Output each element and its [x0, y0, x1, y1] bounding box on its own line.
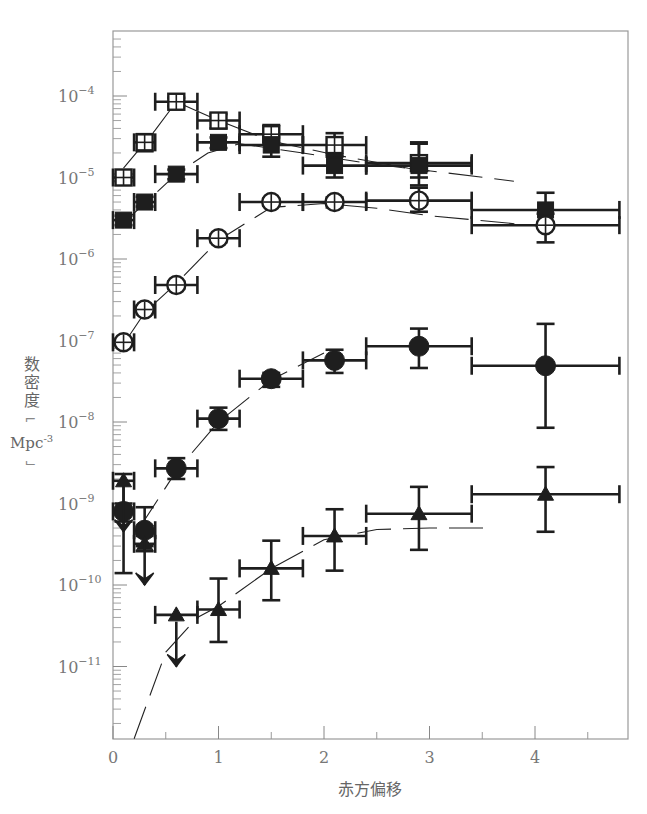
filled-square-marker — [116, 212, 132, 228]
filled-triangles-point — [366, 487, 472, 550]
open-squares-point — [303, 133, 366, 157]
y-tick-label: 10−9 — [58, 492, 95, 514]
filled-circle-marker — [166, 458, 186, 478]
filled-squares-point — [155, 165, 197, 183]
x-tick-label: 1 — [213, 748, 223, 767]
open-circles-point — [240, 193, 303, 211]
y-tick-label: 10−11 — [58, 655, 102, 677]
data-points — [113, 93, 619, 667]
filled-circles-point — [240, 369, 303, 389]
filled-circle-marker — [409, 336, 429, 356]
open-circles-point — [197, 229, 239, 247]
filled-square-marker — [168, 166, 184, 182]
y-tick-exponent: −4 — [78, 84, 94, 97]
filled-circles-point — [197, 408, 239, 430]
y-tick-label: 10−4 — [58, 84, 95, 106]
unit-text: Mpc — [10, 434, 43, 452]
open-circles-point — [113, 333, 134, 351]
y-tick-exponent: −6 — [78, 247, 94, 260]
open-squares-point — [113, 169, 134, 187]
open-circles-point — [303, 193, 366, 211]
filled-triangles-point — [472, 467, 620, 532]
x-tick-label: 0 — [108, 748, 118, 767]
filled-circles-point — [303, 350, 366, 373]
open-circles-point — [366, 188, 472, 212]
y-tick-label: 10−8 — [58, 410, 95, 432]
filled-circle-marker — [261, 369, 281, 389]
y-tick-exponent: −11 — [78, 655, 101, 668]
y-tick-label: 10−7 — [58, 329, 95, 351]
filled-squares-point — [197, 133, 239, 151]
plot-frame — [113, 31, 628, 739]
filled-circles-point — [155, 458, 197, 479]
bracket-close: ⌙ — [14, 453, 46, 472]
filled-triangles-point — [167, 622, 185, 667]
filled-circle-marker — [209, 409, 229, 429]
filled-square-marker — [137, 194, 153, 210]
filled-triangles-point — [303, 509, 366, 570]
filled-circle-marker — [536, 356, 556, 376]
y-axis-unit: Mpc-3 — [10, 429, 46, 453]
y-axis-label: 数密度 ⌐ Mpc-3 ⌙ — [14, 356, 46, 472]
y-tick-label: 10−10 — [58, 573, 102, 595]
y-axis-label-text: 数密度 — [21, 356, 40, 410]
bracket-open: ⌐ — [14, 410, 46, 429]
filled-square-marker — [263, 137, 279, 153]
chart: 10−410−510−610−710−810−910−1010−1101234 … — [0, 0, 647, 814]
filled-triangles-point — [240, 541, 303, 601]
filled-squares-point — [113, 211, 134, 229]
plot-area: 10−410−510−610−710−810−910−1010−1101234 — [0, 0, 647, 814]
y-tick-label: 10−6 — [58, 247, 95, 269]
y-tick-exponent: −8 — [78, 410, 94, 423]
filled-circles-point — [472, 324, 620, 428]
y-tick-exponent: −10 — [78, 573, 101, 586]
filled-triangles-point — [155, 606, 197, 624]
filled-square-marker — [211, 134, 227, 150]
x-tick-label: 4 — [530, 748, 540, 767]
filled-squares-point — [303, 155, 366, 178]
filled-triangles-point — [197, 579, 239, 642]
unit-exponent: -3 — [43, 433, 53, 444]
open-circles-point — [134, 301, 155, 319]
filled-square-marker — [327, 158, 343, 174]
x-tick-label: 3 — [424, 748, 434, 767]
open-circles-point — [155, 276, 197, 294]
y-tick-exponent: −9 — [78, 492, 94, 505]
open-squares-point — [134, 133, 155, 151]
y-tick-label: 10−5 — [58, 166, 95, 188]
x-tick-label: 2 — [319, 748, 329, 767]
triangles-model-line — [134, 528, 493, 739]
filled-circle-marker — [325, 350, 345, 370]
open-circles-point — [472, 214, 620, 243]
y-tick-exponent: −5 — [78, 166, 94, 179]
x-axis-label: 赤方偏移 — [300, 776, 440, 800]
filled-squares-point — [134, 193, 155, 211]
filled-circles-point — [366, 329, 472, 368]
y-tick-exponent: −7 — [78, 329, 94, 342]
filled-square-marker — [411, 158, 427, 174]
